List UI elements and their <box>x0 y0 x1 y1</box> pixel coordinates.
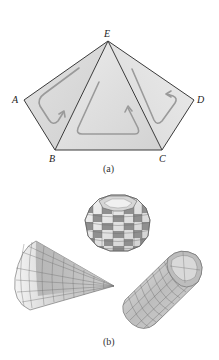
panel-b-caption: (b) <box>103 336 115 348</box>
cylinder-mesh <box>122 251 202 330</box>
cone-mesh <box>15 241 114 310</box>
panel-b-surfaces: (b) <box>15 195 202 348</box>
vertex-label-C: C <box>159 153 166 164</box>
vertex-label-D: D <box>196 94 205 105</box>
surface-orientation-figure: E A B C D (a) <box>0 0 219 360</box>
vertex-label-B: B <box>49 153 55 164</box>
panel-a-pentagon-diagram: E A B C D (a) <box>11 28 205 175</box>
panel-a-caption: (a) <box>103 163 114 175</box>
vertex-label-A: A <box>11 94 19 105</box>
sphere-polyhedron <box>84 195 152 253</box>
vertex-label-E: E <box>103 28 110 39</box>
